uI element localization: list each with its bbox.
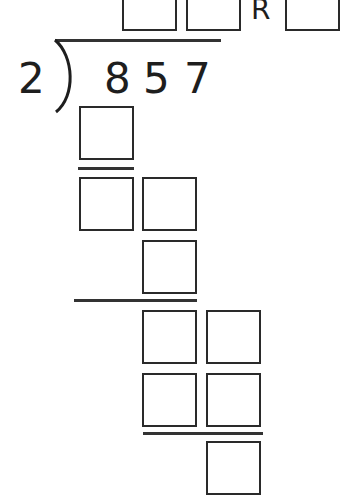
remainder-label: R (251, 0, 270, 24)
work-box-row2-col1[interactable] (79, 177, 134, 231)
dividend-digit-tens: 5 (143, 58, 170, 100)
work-box-row3-col2[interactable] (142, 240, 197, 294)
subtraction-line-3 (143, 432, 263, 435)
quotient-box-tens[interactable] (122, 0, 177, 31)
work-box-row2-col2[interactable] (142, 177, 197, 231)
subtraction-line-1 (78, 167, 134, 170)
remainder-box[interactable] (285, 0, 340, 31)
work-box-row6-col3[interactable] (206, 441, 261, 495)
dividend-digit-hundreds: 8 (104, 58, 131, 100)
work-box-row5-col3[interactable] (206, 373, 261, 427)
work-box-row5-col2[interactable] (142, 373, 197, 427)
quotient-box-ones[interactable] (186, 0, 241, 31)
work-box-row4-col3[interactable] (206, 310, 261, 364)
work-box-row1-col1[interactable] (79, 106, 134, 160)
dividend-digit-ones: 7 (184, 58, 211, 100)
division-bracket-icon (52, 38, 82, 118)
subtraction-line-2 (74, 299, 197, 302)
work-box-row4-col2[interactable] (142, 310, 197, 364)
divisor: 2 (18, 58, 45, 100)
